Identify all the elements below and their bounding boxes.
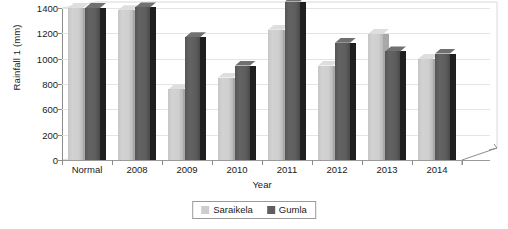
bar-front-face — [235, 66, 250, 160]
bar-front-face — [218, 78, 233, 161]
bar-side-face — [300, 2, 306, 161]
bar-2011-gumla — [285, 2, 300, 161]
x-axis-tick — [162, 160, 163, 165]
chart-legend: SaraikelaGumla — [192, 201, 316, 219]
y-axis-tick — [57, 84, 62, 85]
y-axis-tick-label: 600 — [24, 104, 58, 115]
bar-front-face — [318, 66, 333, 160]
bar-front-face — [435, 54, 450, 160]
bar-normal-saraikela — [68, 8, 83, 160]
x-axis-tick — [212, 160, 213, 165]
bar-front-face — [285, 2, 300, 161]
bar-side-face — [450, 54, 456, 160]
legend-label: Gumla — [279, 204, 307, 215]
bar-side-face — [100, 8, 106, 160]
bar-side-face — [400, 51, 406, 160]
bar-2013-gumla — [385, 51, 400, 160]
bar-front-face — [335, 43, 350, 160]
x-axis-title: Year — [62, 179, 462, 190]
y-axis-tick-labels: 1400120010008006002000 — [24, 8, 58, 160]
bar-2009-saraikela — [168, 89, 183, 160]
legend-item-saraikela[interactable]: Saraikela — [201, 204, 253, 215]
bar-front-face — [368, 34, 383, 160]
y-axis-tick-label: 200 — [24, 129, 58, 140]
x-axis-tick-label: 2008 — [126, 164, 147, 175]
legend-swatch-icon — [201, 206, 209, 214]
y-axis-tick-label: 1000 — [24, 53, 58, 64]
rainfall-bar-chart: Rainfall 1 (mm) 1400120010008006002000 N… — [0, 0, 508, 229]
bar-2008-gumla — [135, 7, 150, 160]
bar-2013-saraikela — [368, 34, 383, 160]
y-axis-tick — [57, 33, 62, 34]
x-axis-tick-label: 2012 — [326, 164, 347, 175]
x-axis-tick-label: 2011 — [277, 164, 297, 175]
bar-2009-gumla — [185, 37, 200, 160]
bars-layer — [62, 8, 490, 160]
bar-front-face — [118, 10, 133, 160]
y-axis-tick-label: 1400 — [24, 3, 58, 14]
bar-front-face — [268, 30, 283, 160]
y-axis-tick-label: 800 — [24, 79, 58, 90]
x-axis-tick — [112, 160, 113, 165]
bar-front-face — [418, 59, 433, 160]
y-axis-tick — [57, 59, 62, 60]
bar-2010-gumla — [235, 66, 250, 160]
bar-front-face — [385, 51, 400, 160]
y-axis-tick — [57, 8, 62, 9]
y-axis-tick-label: 0 — [24, 155, 58, 166]
legend-label: Saraikela — [213, 204, 253, 215]
legend-swatch-icon — [267, 206, 275, 214]
bar-front-face — [135, 7, 150, 160]
x-axis-tick — [362, 160, 363, 165]
bar-2011-saraikela — [268, 30, 283, 160]
bar-side-face — [350, 43, 356, 160]
x-axis-tick-label: Normal — [72, 164, 103, 175]
x-axis-tick — [462, 160, 463, 165]
y-axis-tick — [57, 135, 62, 136]
bar-side-face — [200, 37, 206, 160]
x-axis-tick — [412, 160, 413, 165]
bar-normal-gumla — [85, 8, 100, 160]
x-axis-tick-label: 2009 — [176, 164, 197, 175]
x-axis-tick — [312, 160, 313, 165]
bar-2008-saraikela — [118, 10, 133, 160]
y-axis-tick-label: 1200 — [24, 28, 58, 39]
bar-front-face — [168, 89, 183, 160]
x-axis-tick-label: 2010 — [226, 164, 247, 175]
y-axis-title: Rainfall 1 (mm) — [11, 0, 22, 118]
bar-side-face — [150, 7, 156, 160]
bar-2010-saraikela — [218, 78, 233, 161]
x-axis-tick-label: 2014 — [426, 164, 447, 175]
legend-item-gumla[interactable]: Gumla — [267, 204, 307, 215]
bar-front-face — [68, 8, 83, 160]
x-axis-tick-labels: Normal2008200920102011201220132014 — [62, 164, 462, 180]
bar-side-face — [250, 66, 256, 160]
bar-front-face — [185, 37, 200, 160]
x-axis-tick — [62, 160, 63, 165]
x-axis-tick — [262, 160, 263, 165]
bar-2012-gumla — [335, 43, 350, 160]
bar-2014-gumla — [435, 54, 450, 160]
bar-2012-saraikela — [318, 66, 333, 160]
gridline — [62, 160, 490, 161]
y-axis-tick — [57, 109, 62, 110]
bar-2014-saraikela — [418, 59, 433, 160]
bar-front-face — [85, 8, 100, 160]
x-axis-tick-label: 2013 — [376, 164, 397, 175]
